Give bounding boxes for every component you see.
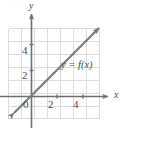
function-equation-label: y = f(x)	[61, 60, 93, 71]
function-graph-figure: y x 4 2 0 2 4 y = f(x)	[0, 0, 161, 142]
x-tick-label-4: 4	[73, 99, 79, 110]
x-tick-label-2: 2	[48, 99, 54, 110]
origin-label: 0	[23, 99, 29, 110]
y-axis-label: y	[29, 1, 33, 11]
y-tick-label-4: 4	[22, 45, 28, 56]
x-axis-label: x	[114, 90, 118, 100]
y-tick-label-2: 2	[22, 70, 28, 81]
